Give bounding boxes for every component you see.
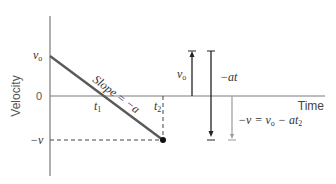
velocity-time-diagram: Velocity vo 0 −v t1 t2 Time Slope = −a v… — [0, 0, 336, 184]
at-arrowhead-icon — [209, 131, 214, 137]
neg-v-arrowhead-icon — [230, 134, 234, 139]
t1-tick: t1 — [94, 99, 101, 114]
neg-v-tick: −v — [30, 133, 44, 147]
end-point — [160, 137, 166, 143]
t2-tick: t2 — [154, 99, 161, 114]
v0-vector-label: vo — [177, 67, 186, 82]
zero-tick: 0 — [36, 90, 42, 102]
v0-tick: vo — [33, 48, 42, 63]
v0-arrowhead-icon — [190, 51, 195, 57]
equation-label: −v = vo − at2 — [238, 113, 302, 128]
velocity-line — [50, 56, 163, 140]
x-axis-label: Time — [298, 99, 325, 113]
at-vector-label: −at — [220, 70, 238, 84]
y-axis-label: Velocity — [9, 75, 23, 116]
